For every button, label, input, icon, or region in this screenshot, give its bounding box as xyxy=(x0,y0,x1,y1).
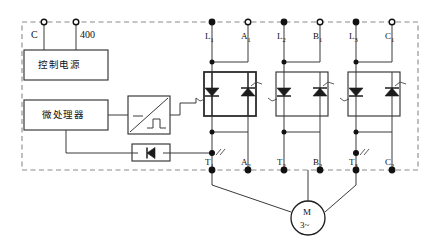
label-terminal-b1-sub: 1 xyxy=(319,36,322,43)
label-terminal-a1-sub: 1 xyxy=(248,36,251,43)
label-terminal-c1: C1 xyxy=(385,32,394,43)
junction-node-l1 xyxy=(210,60,214,64)
label-terminal-t1-sub: 1 xyxy=(211,162,214,169)
terminal-node-c1[interactable] xyxy=(389,19,395,25)
wire-t1-to-motor xyxy=(212,170,291,212)
label-terminal-a2-sub: 2 xyxy=(248,162,251,169)
label-terminal-l2-sub: 2 xyxy=(283,36,286,43)
junction-node-l3 xyxy=(354,60,358,64)
label-terminal-b2: B2 xyxy=(313,158,322,169)
label-terminal-t1: T1 xyxy=(205,158,214,169)
label-terminal-l2: L2 xyxy=(277,32,286,43)
terminal-node-l3[interactable] xyxy=(353,19,359,25)
label-terminal-c2-sub: 2 xyxy=(391,162,394,169)
label-terminal-a1: A1 xyxy=(241,32,251,43)
label-terminal-l1-sub: 1 xyxy=(211,36,214,43)
terminal-node-l2[interactable] xyxy=(281,19,287,25)
label-terminal-t3-sub: 3 xyxy=(355,162,358,169)
label-terminal-l1: L1 xyxy=(205,32,214,43)
wire-micro-to-feedback xyxy=(66,130,132,153)
label-terminal-t2-sub: 2 xyxy=(283,162,286,169)
label-terminal-400: 400 xyxy=(80,30,95,40)
wire-module-c-to-c2-node xyxy=(356,116,392,132)
label-control-power-supply: 控制电源 xyxy=(38,60,80,70)
label-motor-phases: 3~ xyxy=(300,221,309,230)
label-terminal-l3: L3 xyxy=(349,32,358,43)
label-terminal-c2: C2 xyxy=(385,158,394,169)
label-terminal-l3-sub: 3 xyxy=(355,36,358,43)
terminal-node-400[interactable] xyxy=(73,19,79,25)
terminal-node-c[interactable] xyxy=(41,19,47,25)
junction-node-l2 xyxy=(282,60,286,64)
label-terminal-b2-sub: 2 xyxy=(319,162,322,169)
circuit-diagram-canvas: C 400 控制电源 微处理器 L1 A1 L2 B1 L3 C1 T1 A2 … xyxy=(0,0,436,248)
label-motor-designator: M xyxy=(303,208,311,217)
thyristor-a2-triangle-icon xyxy=(241,88,255,96)
label-terminal-c1-sub: 1 xyxy=(391,36,394,43)
thyristor-a1-triangle-icon xyxy=(205,88,219,96)
label-terminal-a2: A2 xyxy=(241,158,251,169)
wire-pulse-to-gate xyxy=(170,98,196,115)
label-microprocessor: 微处理器 xyxy=(42,110,84,120)
label-terminal-b1: B1 xyxy=(313,32,322,43)
sense-tap-node-t3 xyxy=(354,151,359,156)
label-terminal-t2: T2 xyxy=(277,158,286,169)
wire-module-b-to-b2-node xyxy=(284,116,320,132)
terminal-node-b1[interactable] xyxy=(317,19,323,25)
junction-node-t1 xyxy=(210,130,214,134)
schematic-svg xyxy=(0,0,436,248)
wire-module-a-to-a2-node xyxy=(212,116,248,132)
sense-tap-node-t1 xyxy=(210,151,215,156)
junction-node-t3 xyxy=(354,130,358,134)
label-terminal-c: C xyxy=(31,30,38,40)
junction-node-t2 xyxy=(282,130,286,134)
terminal-node-l1[interactable] xyxy=(209,19,215,25)
label-terminal-t3: T3 xyxy=(349,158,358,169)
wire-t3-to-motor xyxy=(325,170,356,212)
terminal-node-a1[interactable] xyxy=(245,19,251,25)
